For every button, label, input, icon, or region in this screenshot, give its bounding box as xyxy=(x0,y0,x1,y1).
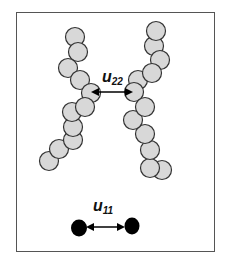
u22-label: u22 xyxy=(102,69,123,87)
u11-label: u11 xyxy=(93,198,113,216)
right-polymer-chain xyxy=(124,22,172,180)
left-polymer-chain xyxy=(40,28,101,171)
polymer-diagram xyxy=(0,0,229,266)
